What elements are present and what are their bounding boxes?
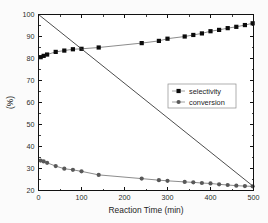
data-point-conversion: [191, 180, 195, 184]
data-point-conversion: [200, 181, 204, 185]
data-point-conversion: [165, 179, 169, 183]
y-tick-label: 70: [27, 76, 35, 85]
data-point-conversion: [140, 177, 144, 181]
data-point-conversion: [208, 181, 212, 185]
data-point-conversion: [226, 183, 230, 187]
legend-label-selectivity: selectivity: [189, 87, 221, 96]
data-point-conversion: [79, 169, 83, 173]
data-point-selectivity: [208, 29, 212, 33]
x-axis-title: Reaction Time (min): [109, 205, 184, 215]
data-point-conversion: [234, 184, 238, 188]
chart-legend[interactable]: selectivityconversion: [168, 84, 236, 108]
y-tick-label: 100: [23, 10, 35, 19]
data-point-selectivity: [140, 41, 144, 45]
legend-marker-selectivity: [177, 89, 181, 93]
data-point-selectivity: [234, 25, 238, 29]
data-point-conversion: [97, 173, 101, 177]
data-point-selectivity: [217, 28, 221, 32]
data-point-selectivity: [226, 26, 230, 30]
y-tick-label: 20: [27, 186, 35, 195]
legend-marker-conversion: [177, 100, 181, 104]
data-point-selectivity: [191, 33, 195, 37]
data-point-selectivity: [157, 39, 161, 43]
y-tick-label: 40: [27, 142, 35, 151]
data-point-conversion: [62, 167, 66, 171]
y-tick-label: 30: [27, 164, 35, 173]
data-point-conversion: [217, 182, 221, 186]
data-point-selectivity: [243, 23, 247, 27]
data-point-selectivity: [183, 34, 187, 38]
data-point-conversion: [157, 178, 161, 182]
x-tick-label: 400: [205, 193, 217, 202]
data-point-selectivity: [62, 48, 66, 52]
x-tick-label: 200: [119, 193, 131, 202]
x-tick-label: 0: [37, 193, 41, 202]
x-tick-label: 300: [162, 193, 174, 202]
chart-canvas: 20304050607080901000100200300400500 sele…: [0, 0, 268, 223]
x-tick-label: 500: [248, 193, 260, 202]
y-axis-title: (%): [5, 96, 15, 109]
data-point-selectivity: [97, 45, 101, 49]
legend-label-conversion: conversion: [189, 98, 225, 107]
data-point-selectivity: [71, 47, 75, 51]
data-point-conversion: [54, 164, 58, 168]
data-point-conversion: [71, 168, 75, 172]
data-point-selectivity: [45, 52, 49, 56]
y-tick-label: 80: [27, 54, 35, 63]
data-point-conversion: [45, 161, 49, 165]
y-tick-label: 60: [27, 98, 35, 107]
data-point-conversion: [183, 180, 187, 184]
x-tick-label: 100: [76, 193, 88, 202]
y-tick-label: 50: [27, 120, 35, 129]
data-point-selectivity: [200, 31, 204, 35]
data-point-conversion: [243, 184, 247, 188]
data-point-selectivity: [251, 21, 255, 25]
chart-figure: 20304050607080901000100200300400500 sele…: [0, 0, 268, 223]
data-point-selectivity: [165, 37, 169, 41]
y-tick-label: 90: [27, 32, 35, 41]
data-point-selectivity: [54, 50, 58, 54]
